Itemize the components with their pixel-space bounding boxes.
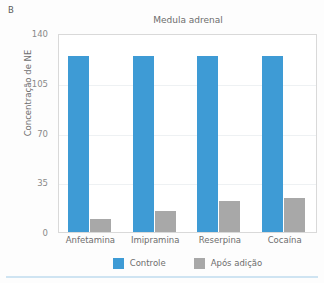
bottom-rule-divider — [6, 276, 318, 278]
bar-ap-s-adi-o-coca-na — [284, 198, 305, 232]
x-tick-label: Imipramina — [131, 235, 180, 245]
y-tick-label: 70 — [0, 129, 48, 139]
y-tick-label: 140 — [0, 29, 48, 39]
legend-item[interactable]: Após adição — [194, 258, 263, 269]
legend-label: Controle — [130, 258, 166, 268]
y-axis-tick-labels: 03570105140 — [0, 0, 54, 283]
bar-controle-imipramina — [133, 56, 154, 232]
x-tick-label: Reserpina — [199, 235, 241, 245]
x-tick-label: Cocaína — [268, 235, 302, 245]
legend-item[interactable]: Controle — [113, 258, 166, 269]
y-tick-label: 35 — [0, 178, 48, 188]
bar-ap-s-adi-o-imipramina — [155, 211, 176, 232]
figure-panel-b: B Medula adrenal Concentração de NE 0357… — [0, 0, 324, 283]
legend-label: Após adição — [211, 258, 263, 268]
bar-controle-coca-na — [262, 56, 283, 232]
x-tick-label: Anfetamina — [66, 235, 115, 245]
y-tick-label: 0 — [0, 228, 48, 238]
bar-ap-s-adi-o-reserpina — [219, 201, 240, 232]
legend-swatch-apos-adicao — [194, 258, 205, 269]
bar-controle-reserpina — [197, 56, 218, 232]
x-axis-tick-labels: AnfetaminaImipraminaReserpinaCocaína — [58, 235, 317, 251]
plot-area — [58, 34, 317, 233]
y-tick-label: 105 — [0, 79, 48, 89]
bar-controle-anfetamina — [68, 56, 89, 232]
legend-swatch-controle — [113, 258, 124, 269]
chart-legend: ControleApós adição — [58, 255, 317, 271]
chart-title: Medula adrenal — [58, 15, 318, 25]
bar-ap-s-adi-o-anfetamina — [90, 219, 111, 232]
